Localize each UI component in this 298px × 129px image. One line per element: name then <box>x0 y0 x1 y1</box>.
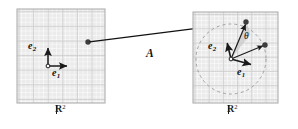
codomain-space-label: R2 <box>227 104 237 114</box>
figure-canvas <box>0 0 298 129</box>
map-arrow-label: A <box>146 48 154 60</box>
domain-panel <box>17 9 105 103</box>
domain-e1-label: e1 <box>52 68 60 80</box>
codomain-e2-label: e2 <box>208 41 216 53</box>
codomain-e1-label: e1 <box>237 67 245 79</box>
domain-space-label: R2 <box>55 104 65 114</box>
domain-origin-dot <box>46 64 50 68</box>
linear-map-figure: e1 e2 A e1 e2 θ R2 R2 <box>0 0 298 129</box>
domain-grid <box>17 9 105 103</box>
codomain-origin-dot <box>229 57 233 61</box>
codomain-panel <box>193 12 278 103</box>
image-point-right <box>262 42 267 47</box>
domain-e2-label: e2 <box>28 41 36 53</box>
image-point-top <box>243 19 248 24</box>
theta-angle-label: θ <box>244 32 249 42</box>
